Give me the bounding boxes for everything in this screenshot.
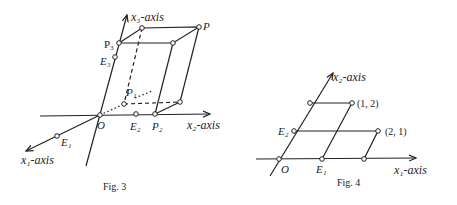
x3-axis-label: x₃-axis	[130, 10, 164, 24]
point-top-front	[171, 41, 176, 46]
point-O-fig4	[277, 157, 282, 162]
caption-fig-3: Fig. 3	[103, 181, 126, 192]
label-P3: P₃	[104, 38, 114, 50]
label-E1: E₁	[60, 136, 72, 148]
label-P: P	[202, 20, 210, 32]
edge-bottom-right	[155, 102, 180, 114]
point-E1	[55, 134, 60, 139]
label-E1-fig4: E₁	[315, 163, 327, 175]
figure-3	[26, 15, 210, 166]
hidden-edge-p1-label	[135, 91, 152, 98]
point-E3	[113, 55, 118, 60]
point-2e2-fig4	[308, 101, 313, 106]
point-P3	[117, 41, 122, 46]
top-face	[119, 27, 199, 43]
label-2-1: (2, 1)	[385, 126, 407, 138]
label-E2: E₂	[129, 120, 141, 132]
hidden-edge-origin	[100, 104, 124, 115]
point-E2	[134, 112, 139, 117]
point-2-1	[376, 129, 381, 134]
grid-line-2-col	[364, 131, 378, 159]
point-1-2	[350, 101, 355, 106]
label-1-2: (1, 2)	[357, 98, 379, 110]
point-O	[98, 113, 103, 118]
point-E1-fig4	[320, 157, 325, 162]
x1-axis-label-fig4: x₁-axis	[393, 163, 427, 177]
label-E2-fig4: E₂	[277, 125, 289, 137]
point-top-back	[140, 26, 145, 31]
point-E2-fig4	[292, 129, 297, 134]
label-P2: P₂	[151, 120, 163, 132]
label-P1: P₁	[125, 86, 137, 98]
x2-axis-line	[40, 114, 210, 116]
point-P	[197, 25, 202, 30]
point-2e1-fig4	[362, 157, 367, 162]
hidden-edge-bottom	[124, 102, 180, 104]
label-O: O	[97, 119, 105, 131]
x2-axis-label-fig4: x₂-axis	[332, 70, 366, 84]
x2-axis-label: x₂-axis	[186, 118, 220, 132]
edge-front-right	[155, 43, 173, 114]
x1-axis-label: x₁-axis	[20, 153, 54, 167]
edge-back-right	[180, 27, 199, 102]
caption-fig-4: Fig. 4	[337, 177, 360, 188]
figure-4-labels: x₂-axis x₁-axis O E₁ E₂ (1, 2) (2, 1) Fi…	[277, 70, 427, 188]
diagram-canvas: x₃-axis x₂-axis x₁-axis O E₁ E₂ P₂ E₃ P₃…	[0, 0, 457, 205]
label-O-fig4: O	[281, 163, 289, 175]
point-P1	[122, 102, 127, 107]
point-P2	[153, 112, 158, 117]
point-bottom-back	[178, 100, 183, 105]
figure-3-labels: x₃-axis x₂-axis x₁-axis O E₁ E₂ P₂ E₃ P₃…	[20, 10, 220, 192]
label-E3: E₃	[99, 55, 111, 67]
